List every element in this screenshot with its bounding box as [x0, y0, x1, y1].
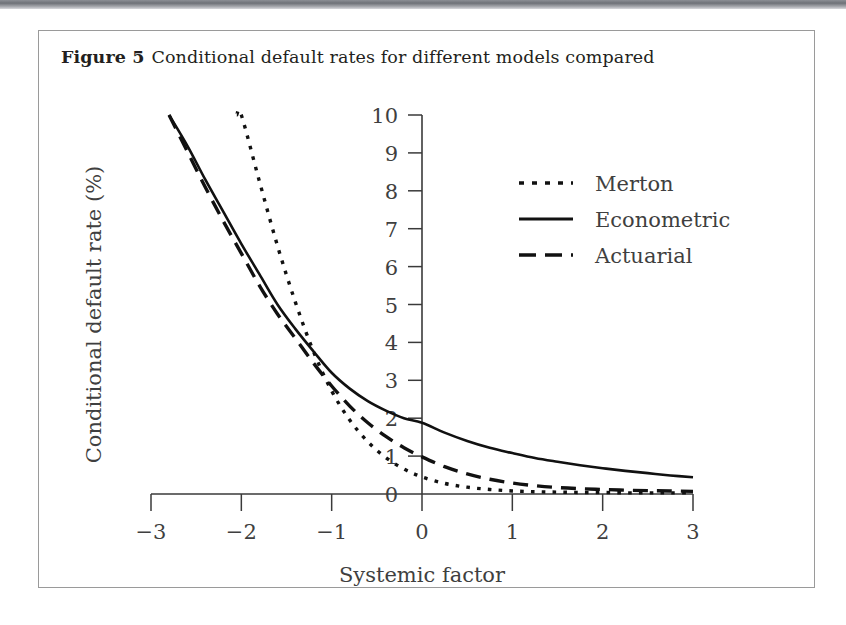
y-tick-label: 8 — [385, 180, 398, 204]
series-merton — [237, 110, 693, 493]
y-tick-label: 4 — [385, 331, 398, 355]
series-econometric — [169, 115, 693, 477]
y-tick-label: 10 — [371, 104, 398, 128]
x-tick-label: 1 — [506, 520, 519, 544]
x-tick-label: 0 — [415, 520, 428, 544]
x-tick-label: 3 — [686, 520, 699, 544]
x-tick-label: −1 — [316, 520, 347, 544]
y-tick-label: 0 — [385, 483, 398, 507]
y-axis-title: Conditional default rate (%) — [82, 166, 106, 464]
chart-legend: MertonEconometricActuarial — [519, 172, 730, 268]
y-tick-label: 7 — [385, 218, 398, 242]
chart-series-group — [169, 110, 693, 493]
x-tick-label: −3 — [136, 520, 167, 544]
chart-axes: −3−2−10123012345678910 — [136, 104, 700, 544]
x-tick-label: 2 — [596, 520, 609, 544]
figure-container: Figure 5Conditional default rates for di… — [38, 30, 815, 588]
y-tick-label: 9 — [385, 142, 398, 166]
y-tick-label: 6 — [385, 256, 398, 280]
legend-label-econometric: Econometric — [595, 208, 730, 232]
y-tick-label: 3 — [385, 369, 398, 393]
legend-label-merton: Merton — [595, 172, 674, 196]
y-tick-label: 5 — [385, 294, 398, 318]
x-axis-title: Systemic factor — [339, 563, 506, 587]
x-tick-label: −2 — [226, 520, 257, 544]
chart-svg: −3−2−10123012345678910 MertonEconometric… — [39, 31, 816, 589]
legend-label-actuarial: Actuarial — [594, 244, 693, 268]
chart-plot-area: −3−2−10123012345678910 MertonEconometric… — [39, 31, 816, 589]
page-top-rule — [0, 0, 846, 9]
